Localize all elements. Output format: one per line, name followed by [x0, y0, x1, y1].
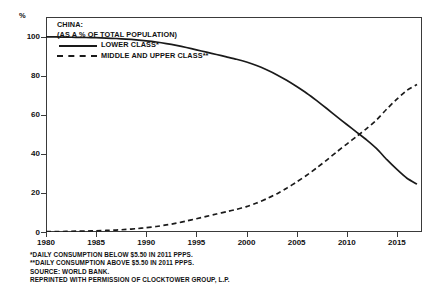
- x-tick-mark: [297, 232, 298, 237]
- x-tick-mark: [96, 232, 97, 237]
- x-tick-mark: [347, 232, 348, 237]
- y-tick-label: 0: [36, 228, 40, 237]
- legend-label-middle-upper-class: MIDDLE AND UPPER CLASS**: [101, 51, 209, 60]
- x-tick-label: 2010: [327, 238, 367, 247]
- legend-title-line-1: CHINA:: [57, 20, 209, 30]
- x-tick-label: 1985: [76, 238, 116, 247]
- x-tick-mark: [146, 232, 147, 237]
- footnote-line: *DAILY CONSUMPTION BELOW $5.50 IN 2011 P…: [30, 251, 230, 259]
- series-line-middle-upper-class: [46, 84, 417, 231]
- legend-label-lower-class: LOWER CLASS*: [101, 40, 159, 49]
- x-tick-label: 1995: [176, 238, 216, 247]
- chart-legend: CHINA: (AS A % OF TOTAL POPULATION) LOWE…: [57, 20, 209, 61]
- chart-root: % 100806040200 1980198519901995200020052…: [0, 0, 438, 295]
- x-tick-mark: [247, 232, 248, 237]
- footnote-line: SOURCE: WORLD BANK.: [30, 268, 230, 276]
- x-tick-mark: [196, 232, 197, 237]
- footnote-line: REPRINTED WITH PERMISSION OF CLOCKTOWER …: [30, 276, 230, 284]
- x-tick-label: 2000: [227, 238, 267, 247]
- legend-title-line-2: (AS A % OF TOTAL POPULATION): [57, 30, 209, 40]
- x-tick-label: 2005: [277, 238, 317, 247]
- y-tick-label: 60: [31, 110, 40, 119]
- y-tick-label: 100: [27, 32, 40, 41]
- legend-entry-lower-class: LOWER CLASS*: [57, 40, 209, 50]
- x-tick-label: 2015: [377, 238, 417, 247]
- x-tick-label: 1980: [26, 238, 66, 247]
- x-tick-label: 1990: [126, 238, 166, 247]
- y-tick-label: 40: [31, 149, 40, 158]
- legend-swatch-solid-line-icon: [59, 45, 97, 47]
- y-tick-label: 20: [31, 188, 40, 197]
- x-tick-mark: [397, 232, 398, 237]
- legend-entry-middle-upper-class: MIDDLE AND UPPER CLASS**: [57, 51, 209, 61]
- y-axis-unit-label: %: [19, 11, 26, 20]
- legend-swatch-dashed-line-icon: [57, 55, 97, 57]
- chart-footnotes: *DAILY CONSUMPTION BELOW $5.50 IN 2011 P…: [30, 251, 230, 285]
- x-tick-mark: [46, 232, 47, 237]
- footnote-line: **DAILY CONSUMPTION ABOVE $5.50 IN 2011 …: [30, 259, 230, 267]
- y-tick-label: 80: [31, 71, 40, 80]
